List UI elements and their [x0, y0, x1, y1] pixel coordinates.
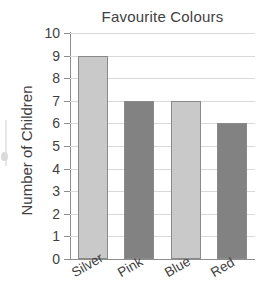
gridline	[70, 33, 255, 34]
y-axis-tick-label: 9	[36, 49, 60, 63]
y-axis-tick-label: 7	[36, 94, 60, 108]
y-axis-tick-label: 2	[36, 207, 60, 221]
plot-area	[70, 33, 255, 259]
y-axis-title: Number of Children	[18, 51, 35, 251]
chart-title: Favourite Colours	[70, 8, 255, 25]
bar-chart-figure: Favourite Colours Number of Children 109…	[0, 0, 270, 306]
bar-red	[217, 123, 247, 259]
bar-silver	[78, 56, 108, 259]
y-axis-tick-label: 3	[36, 184, 60, 198]
y-axis-tick-label: 6	[36, 116, 60, 130]
y-axis-tick-label: 1	[36, 229, 60, 243]
y-axis-tick-label: 4	[36, 162, 60, 176]
bar-blue	[171, 101, 201, 259]
y-axis-tick-label: 10	[36, 26, 60, 40]
y-axis-tick-label: 8	[36, 71, 60, 85]
y-axis-tick-label: 5	[36, 139, 60, 153]
y-axis-tick-label: 0	[36, 252, 60, 266]
scan-artifact-edge	[5, 120, 7, 166]
bar-pink	[124, 101, 154, 259]
